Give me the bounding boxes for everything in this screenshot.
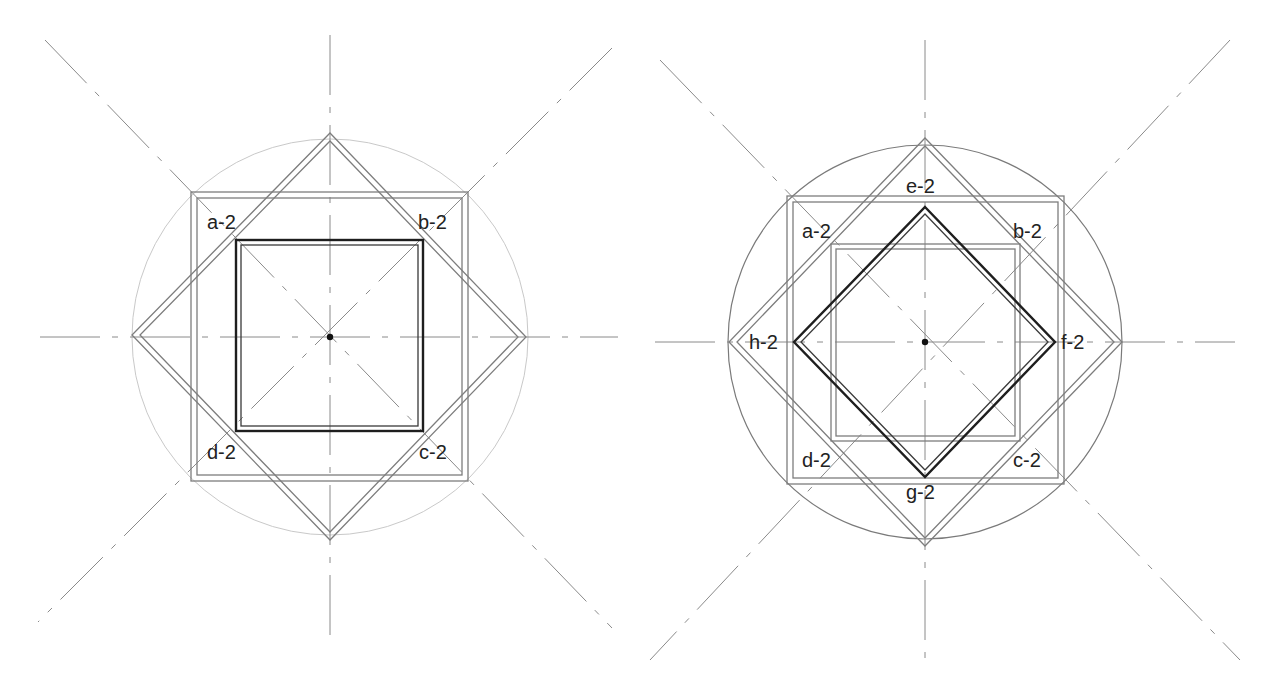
vertex-label-h-2: h-2 <box>749 331 778 353</box>
vertex-label-c-2: c-2 <box>1013 449 1041 471</box>
diagram-canvas: a-2b-2c-2d-2 e-2f-2g-2h-2a-2b-2c-2d-2 <box>0 0 1264 696</box>
vertex-label-g-2: g-2 <box>906 481 935 503</box>
diagonal-guide-line-1 <box>45 40 612 628</box>
vertex-label-b-2: b-2 <box>418 211 447 233</box>
vertex-label-b-2: b-2 <box>1013 220 1042 242</box>
vertex-label-f-2: f-2 <box>1061 331 1084 353</box>
vertex-label-a-2: a-2 <box>207 211 236 233</box>
right-figure-octagram-construction: e-2f-2g-2h-2a-2b-2c-2d-2 <box>650 40 1240 668</box>
vertex-label-e-2: e-2 <box>906 175 935 197</box>
vertex-label-a-2: a-2 <box>802 220 831 242</box>
center-point <box>327 334 333 340</box>
center-point <box>922 339 928 345</box>
vertex-label-d-2: d-2 <box>802 449 831 471</box>
diagonal-guide-line-2 <box>38 48 612 622</box>
vertex-label-d-2: d-2 <box>207 441 236 463</box>
left-figure-square-construction: a-2b-2c-2d-2 <box>38 35 618 640</box>
vertex-label-c-2: c-2 <box>419 441 447 463</box>
